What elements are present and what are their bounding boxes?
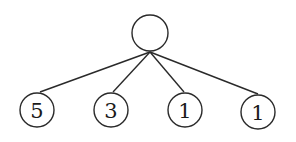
- edges: [40, 52, 258, 94]
- child-nodes: 5 3 1 1: [20, 93, 275, 129]
- child-label: 3: [104, 99, 117, 123]
- child-label: 5: [30, 99, 43, 123]
- child-label: 1: [178, 99, 191, 123]
- child-node: 5: [20, 93, 54, 127]
- root-circle: [132, 15, 168, 51]
- child-label: 1: [251, 101, 264, 125]
- tree-edge: [150, 52, 258, 94]
- tree-edge: [40, 52, 150, 92]
- child-node: 3: [94, 93, 128, 127]
- child-node: 1: [168, 93, 202, 127]
- tree-diagram: 5 3 1 1: [0, 0, 296, 142]
- root-node: [132, 15, 168, 51]
- child-node: 1: [241, 95, 275, 129]
